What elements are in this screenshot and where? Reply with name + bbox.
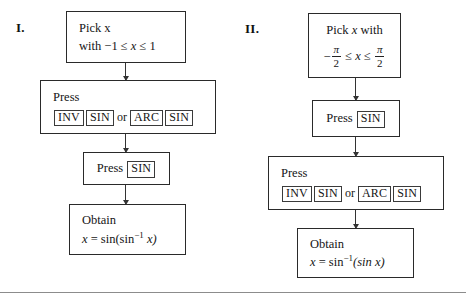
press-label: Press <box>97 161 123 175</box>
key-sin[interactable]: SIN <box>127 161 155 178</box>
or-word: or <box>117 110 127 124</box>
range-suffix: ≤ 1 <box>136 39 155 53</box>
obtain-equation: x = sin(sin−1 x) <box>82 230 185 248</box>
result-inner: (sin x) <box>353 255 385 269</box>
press-label: Press <box>281 164 443 182</box>
result-equals: = sin <box>316 255 344 269</box>
fraction-denominator: 2 <box>375 57 385 69</box>
press-label: Press <box>53 88 215 106</box>
result-equals: = sin(sin <box>88 232 135 246</box>
key-sin[interactable]: SIN <box>314 186 342 203</box>
obtain-label: Obtain <box>82 211 185 229</box>
key-sequence: INVSINorARCSIN <box>281 184 443 203</box>
step-box-press-sin: Press SIN <box>312 100 400 137</box>
arrow-connector <box>125 134 126 152</box>
fraction-pi-over-two-left: π2 <box>332 44 342 69</box>
press-sin-row: Press SIN <box>97 159 156 178</box>
arrow-connector <box>355 78 356 100</box>
column-label-two: II. <box>245 21 259 37</box>
key-sequence: INVSINorARCSIN <box>53 108 215 127</box>
step-box-pick-x-range: Pick x with −π2 ≤ x ≤ π2 <box>308 13 401 78</box>
arrow-connector <box>125 185 126 204</box>
fraction-denominator: 2 <box>332 57 342 69</box>
pick-x-line-1: Pick x <box>79 19 185 37</box>
range-relation-left: ≤ <box>342 49 355 63</box>
range-prefix: with −1 ≤ <box>79 39 131 53</box>
step-box-press-sin: Press SIN <box>83 152 170 185</box>
step-box-obtain-result: Obtain x = sin−1(sin x) <box>297 228 414 278</box>
press-sin-row: Press SIN <box>326 109 385 128</box>
obtain-equation: x = sin−1(sin x) <box>310 253 413 271</box>
column-label-one: I. <box>16 20 25 36</box>
arrow-connector <box>125 63 126 80</box>
key-sin[interactable]: SIN <box>357 111 385 128</box>
or-word: or <box>345 186 355 200</box>
pick-x-text: Pick x <box>79 21 111 35</box>
fraction-numerator: π <box>332 44 342 57</box>
pick-x-line-1: Pick x with <box>326 21 382 39</box>
fraction-numerator: π <box>375 44 385 57</box>
key-arc[interactable]: ARC <box>358 186 391 203</box>
step-box-obtain-result: Obtain x = sin(sin−1 x) <box>69 204 186 255</box>
step-box-press-inverse-keys: Press INVSINorARCSIN <box>268 156 444 210</box>
key-arc[interactable]: ARC <box>130 110 163 127</box>
press-label: Press <box>326 111 352 125</box>
arrow-connector <box>355 137 356 156</box>
step-box-press-inverse-keys: Press INVSINorARCSIN <box>40 80 216 134</box>
result-exponent: −1 <box>134 229 144 239</box>
key-inv[interactable]: INV <box>54 110 84 127</box>
key-inv[interactable]: INV <box>282 186 312 203</box>
bottom-divider-rule <box>0 292 466 293</box>
range-minus-sign: − <box>324 48 331 66</box>
key-sin-2[interactable]: SIN <box>165 110 193 127</box>
pick-x-line-2: with −1 ≤ x ≤ 1 <box>79 37 185 55</box>
textbook-figure: I. Pick x with −1 ≤ x ≤ 1 Press INVSINor… <box>0 0 466 300</box>
key-sin-2[interactable]: SIN <box>393 186 421 203</box>
pick-suffix: with <box>357 23 382 37</box>
range-relation-right: ≤ <box>361 49 374 63</box>
result-inner: x) <box>144 232 157 246</box>
result-exponent: −1 <box>343 253 353 263</box>
pick-x-range-expression: −π2 ≤ x ≤ π2 <box>324 45 386 70</box>
pick-prefix: Pick <box>326 23 351 37</box>
fraction-pi-over-two-right: π2 <box>375 44 385 69</box>
step-box-pick-x: Pick x with −1 ≤ x ≤ 1 <box>66 11 186 63</box>
arrow-connector <box>355 210 356 228</box>
key-sin[interactable]: SIN <box>86 110 114 127</box>
obtain-label: Obtain <box>310 235 413 253</box>
